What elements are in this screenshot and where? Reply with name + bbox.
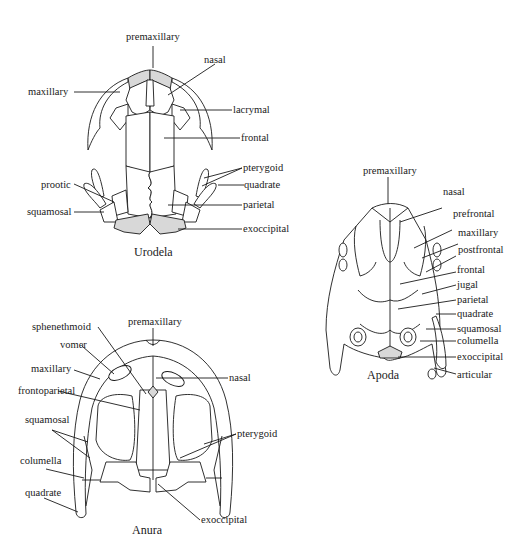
anura-label-vomer: vomer <box>60 339 87 351</box>
apoda-label-articular: articular <box>457 369 492 381</box>
anura-label-columella: columella <box>20 455 61 467</box>
anura-skull-drawing <box>73 340 232 518</box>
apoda-label-parietal: parietal <box>457 294 488 306</box>
urodela-label-parietal: parietal <box>243 199 274 211</box>
anura-label-maxillary: maxillary <box>31 363 71 375</box>
anura-label-premaxillary: premaxillary <box>128 316 182 328</box>
apoda-label-postfrontal: postfrontal <box>458 244 504 256</box>
urodela-label-lacrymal: lacrymal <box>233 104 270 116</box>
apoda-label-jugal: jugal <box>457 279 478 291</box>
urodela-label-premaxillary: premaxillary <box>126 31 180 43</box>
urodela-label-maxillary: maxillary <box>28 86 68 98</box>
urodela-label-pterygoid: pterygoid <box>243 162 283 174</box>
apoda-label-frontal: frontal <box>457 264 485 276</box>
apoda-label-nasal: nasal <box>443 186 465 198</box>
anura-label-squamosal: squamosal <box>25 414 69 426</box>
urodela-label-quadrate: quadrate <box>244 179 280 191</box>
urodela-label-prootic: prootic <box>41 179 71 191</box>
apoda-label-quadrate: quadrate <box>457 308 493 320</box>
apoda-label-squamosal: squamosal <box>457 323 501 335</box>
anura-label-frontoparietal: frontoparietal <box>18 385 75 397</box>
apoda-label-columella: columella <box>457 335 498 347</box>
apoda-skull-drawing <box>326 204 446 380</box>
anura-label-quadrate: quadrate <box>25 487 61 499</box>
anura-caption: Anura <box>132 523 162 538</box>
apoda-label-prefrontal: prefrontal <box>453 208 494 220</box>
skull-diagrams <box>0 0 523 549</box>
urodela-caption: Urodela <box>134 245 173 260</box>
urodela-label-frontal: frontal <box>241 132 269 144</box>
apoda-label-exoccipital: exoccipital <box>457 351 503 363</box>
anura-label-pterygoid: pterygoid <box>237 428 277 440</box>
urodela-label-nasal: nasal <box>204 54 226 66</box>
apoda-label-premaxillary: premaxillary <box>363 165 417 177</box>
urodela-skull-drawing <box>84 70 216 234</box>
apoda-caption: Apoda <box>367 368 399 383</box>
anura-label-exoccipital: exoccipital <box>201 514 247 526</box>
apoda-label-maxillary: maxillary <box>458 227 498 239</box>
anura-label-nasal: nasal <box>229 372 251 384</box>
anura-label-sphenethmoid: sphenethmoid <box>32 321 91 333</box>
urodela-label-squamosal: squamosal <box>27 206 71 218</box>
urodela-label-exoccipital: exoccipital <box>243 223 289 235</box>
